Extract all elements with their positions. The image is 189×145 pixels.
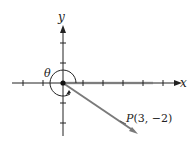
coordinate-plane: y x θ P(3, −2) [0, 0, 189, 145]
angle-label: θ [44, 67, 51, 80]
vector-op [63, 83, 134, 131]
point-label: P(3, −2) [125, 112, 172, 125]
angle-arc-arrow-icon [66, 90, 71, 95]
origin-dot [60, 80, 65, 85]
x-axis-label: x [180, 76, 187, 90]
y-axis-label: y [57, 10, 65, 24]
diagram-canvas: y x θ P(3, −2) [0, 0, 189, 145]
y-axis-arrow-icon [60, 25, 66, 33]
